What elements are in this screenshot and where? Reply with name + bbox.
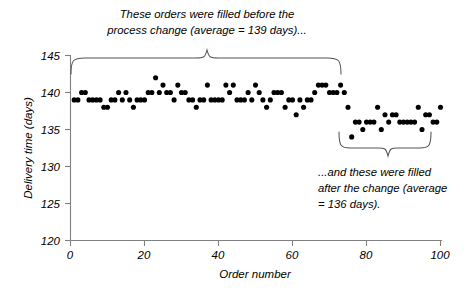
y-tick-label-145: 145: [41, 50, 61, 62]
data-point: [253, 83, 258, 88]
after-change-note-line-3: = 136 days).: [318, 198, 381, 210]
data-point: [375, 105, 380, 110]
y-axis-title: Delivery time (days): [22, 97, 34, 199]
data-point: [157, 90, 162, 95]
data-point: [172, 97, 177, 102]
data-point: [412, 120, 417, 125]
before-change-note-line-2: process change (average = 139 days)...: [106, 24, 306, 36]
data-point: [220, 97, 225, 102]
data-point: [379, 127, 384, 132]
data-point: [98, 97, 103, 102]
y-tick-label-125: 125: [41, 198, 61, 210]
x-tick-label-20: 20: [137, 249, 151, 261]
data-point: [131, 105, 136, 110]
x-tick-label-40: 40: [212, 249, 225, 261]
data-point: [246, 90, 251, 95]
x-tick-label-0: 0: [67, 249, 74, 261]
data-point: [249, 97, 254, 102]
data-point: [290, 97, 295, 102]
data-point: [394, 112, 399, 117]
data-point: [345, 105, 350, 110]
data-point: [242, 97, 247, 102]
data-point: [168, 90, 173, 95]
data-point: [434, 120, 439, 125]
data-point: [342, 90, 347, 95]
data-point: [227, 90, 232, 95]
y-tick-label-135: 135: [41, 124, 61, 136]
data-point: [194, 105, 199, 110]
data-point: [308, 97, 313, 102]
data-point: [264, 105, 269, 110]
data-point: [105, 105, 110, 110]
data-point: [190, 97, 195, 102]
data-point: [360, 127, 365, 132]
data-point: [112, 97, 117, 102]
data-point: [201, 97, 206, 102]
data-point: [386, 120, 391, 125]
data-point: [323, 83, 328, 88]
x-tick-label-60: 60: [286, 249, 299, 261]
data-point: [120, 97, 125, 102]
after-change-note: ...and these were filled after the chang…: [318, 166, 447, 210]
data-point: [149, 90, 154, 95]
after-change-note-line-2: after the change (average: [318, 182, 447, 194]
data-point: [142, 97, 147, 102]
before-change-note-line-1: These orders were filled before the: [120, 8, 295, 20]
data-point: [153, 75, 158, 80]
y-tick-label-120: 120: [41, 235, 61, 247]
data-point: [183, 90, 188, 95]
data-point: [260, 97, 265, 102]
before-change-brace: [71, 50, 341, 74]
data-point: [116, 90, 121, 95]
data-point: [160, 83, 165, 88]
x-axis-ticks: [71, 241, 441, 247]
data-point: [268, 97, 273, 102]
data-point: [294, 112, 299, 117]
after-change-note-line-1: ...and these were filled: [318, 166, 432, 178]
data-point: [231, 83, 236, 88]
y-tick-label-130: 130: [41, 161, 61, 173]
data-point: [427, 112, 432, 117]
data-point: [83, 90, 88, 95]
data-point: [175, 83, 180, 88]
data-point: [223, 83, 228, 88]
y-axis-ticks: [65, 56, 71, 241]
y-tick-label-140: 140: [41, 87, 61, 99]
x-tick-label-100: 100: [430, 249, 450, 261]
data-point: [283, 105, 288, 110]
scatter-chart: 145 140 135 130 125 120 0 20 40 60 80 10…: [0, 0, 476, 291]
data-point: [279, 90, 284, 95]
data-point: [297, 97, 302, 102]
data-point: [257, 90, 262, 95]
data-point: [338, 83, 343, 88]
data-point: [334, 90, 339, 95]
x-axis-title: Order number: [219, 268, 292, 280]
data-point: [416, 105, 421, 110]
data-point: [382, 112, 387, 117]
data-point: [357, 120, 362, 125]
before-change-note: These orders were filled before the proc…: [106, 8, 306, 36]
data-point: [205, 83, 210, 88]
data-point: [312, 90, 317, 95]
x-tick-label-80: 80: [360, 249, 373, 261]
data-point: [75, 97, 80, 102]
data-point: [349, 134, 354, 139]
data-point: [371, 120, 376, 125]
data-point: [127, 97, 132, 102]
data-point: [419, 127, 424, 132]
data-point: [123, 90, 128, 95]
data-point: [301, 105, 306, 110]
data-points-layer: [72, 75, 443, 139]
data-point: [438, 105, 443, 110]
